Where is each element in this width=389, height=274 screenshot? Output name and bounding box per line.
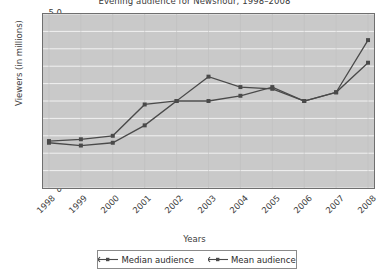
data-point	[143, 123, 147, 127]
x-tick-label: 2005	[255, 193, 282, 220]
data-point	[207, 75, 211, 79]
x-tick-label: 2003	[191, 193, 218, 220]
plot-canvas	[43, 14, 374, 188]
data-point	[47, 139, 51, 143]
x-tick-label: 2002	[159, 193, 186, 220]
chart-title: Evening audience for Newshour, 1998–2008	[0, 0, 389, 6]
legend-label-median: Median audience	[121, 255, 194, 265]
legend-item-median[interactable]: Median audience	[98, 255, 194, 265]
data-point	[207, 99, 211, 103]
x-tick-label: 2008	[351, 193, 378, 220]
chart-legend: Median audience Mean audience	[97, 250, 297, 269]
x-axis-title: Years	[0, 234, 389, 244]
line-chart: Evening audience for Newshour, 1998–2008…	[0, 0, 389, 274]
x-tick-label: 1998	[30, 193, 57, 220]
data-point	[111, 134, 115, 138]
legend-item-mean[interactable]: Mean audience	[208, 255, 296, 265]
data-point	[111, 141, 115, 145]
data-point	[366, 38, 370, 42]
y-axis-title: Viewers (in millions)	[14, 0, 24, 138]
x-tick-label: 2006	[287, 193, 314, 220]
data-point	[175, 99, 179, 103]
x-tick-label: 2000	[94, 193, 121, 220]
x-tick-label: 2007	[319, 193, 346, 220]
data-point	[79, 137, 83, 141]
legend-line-marker-icon	[208, 255, 228, 264]
legend-label-mean: Mean audience	[231, 255, 296, 265]
data-point	[334, 90, 338, 94]
legend-line-marker-icon	[98, 255, 118, 264]
data-point	[366, 61, 370, 65]
data-point	[302, 99, 306, 103]
plot-area	[42, 13, 375, 189]
data-point	[79, 144, 83, 148]
data-point	[270, 87, 274, 91]
data-point	[143, 103, 147, 107]
data-point	[238, 94, 242, 98]
x-tick-label: 2004	[223, 193, 250, 220]
data-point	[238, 85, 242, 89]
x-tick-label: 1999	[62, 193, 89, 220]
x-tick-label: 2001	[126, 193, 153, 220]
